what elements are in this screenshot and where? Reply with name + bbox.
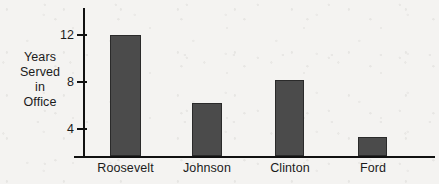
y-axis-title-line-4: Office [6,95,74,110]
x-axis-line [74,156,435,158]
x-axis-label-ford: Ford [334,161,412,175]
y-tick-mark-8 [77,81,87,83]
x-axis-label-johnson: Johnson [168,161,246,175]
bar-clinton[interactable] [275,80,304,156]
y-tick-label-8: 8 [52,75,74,89]
bar-ford[interactable] [358,137,387,156]
bar-chart: Years Served in Office 12 8 4 Roosevelt … [0,0,439,184]
y-axis-title-line-1: Years [6,50,74,65]
y-tick-mark-12 [77,34,87,36]
x-axis-label-clinton: Clinton [251,161,329,175]
y-tick-mark-4 [77,128,87,130]
bar-roosevelt[interactable] [110,35,141,156]
y-axis-line [83,8,85,158]
bar-johnson[interactable] [192,103,222,156]
x-axis-label-roosevelt: Roosevelt [85,161,166,175]
y-tick-label-12: 12 [52,28,74,42]
y-tick-label-4: 4 [52,122,74,136]
